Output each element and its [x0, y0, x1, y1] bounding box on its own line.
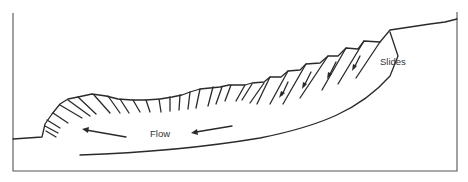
landslide-diagram: Flow Slides [0, 0, 468, 182]
arrow-left-icon [191, 129, 198, 135]
arrow-head-icon [279, 91, 285, 98]
slip-surface [80, 32, 398, 155]
ground-surface [13, 19, 457, 139]
arrow-left-icon [82, 127, 89, 133]
slide-scarps [250, 41, 380, 104]
arrow-head-icon [352, 64, 357, 71]
flow-label: Flow [150, 128, 170, 139]
slides-label: Slides [380, 56, 406, 67]
hachures [45, 84, 252, 137]
frame [13, 12, 457, 171]
slide-arrows [279, 56, 360, 98]
